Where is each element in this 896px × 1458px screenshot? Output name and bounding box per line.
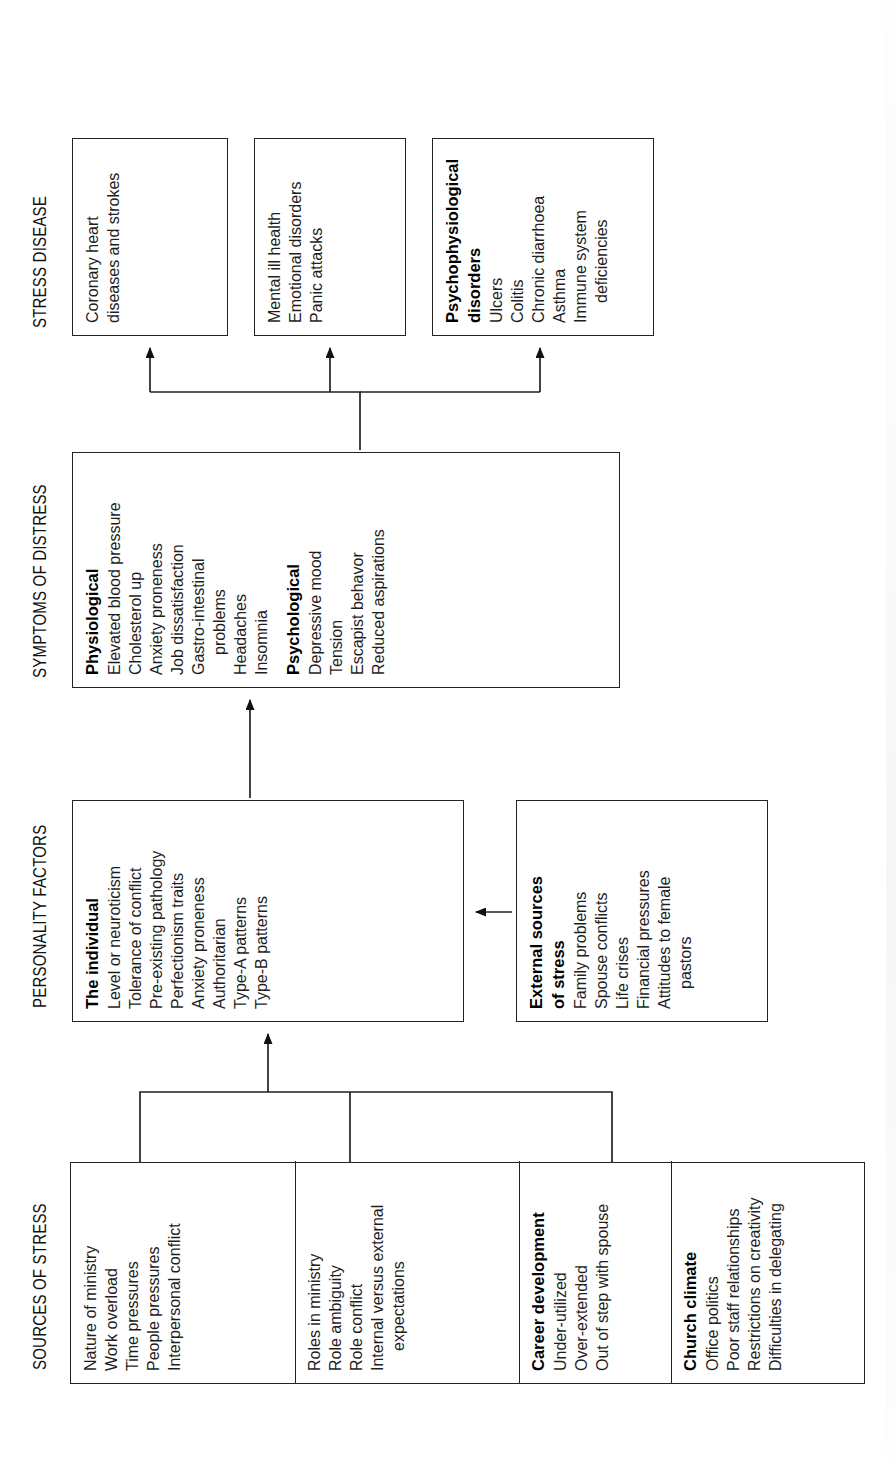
list-item: Spouse conflicts bbox=[591, 812, 612, 1009]
list-item: Emotional disorders bbox=[285, 150, 306, 323]
list-item: Internal versus external bbox=[367, 1172, 388, 1371]
source-group-career-development: Career development Under-utilized Over-e… bbox=[519, 1161, 671, 1383]
list-item: Escapist behavor bbox=[347, 464, 368, 675]
list-item: Authoritarian bbox=[209, 812, 230, 1009]
list-item: Role ambiguity bbox=[325, 1172, 346, 1371]
list-item: Role conflict bbox=[346, 1172, 367, 1371]
heading-stress-disease: STRESS DISEASE bbox=[30, 196, 51, 328]
list-item: Interpersonal conflict bbox=[164, 1172, 185, 1371]
list-item: deficiencies bbox=[591, 150, 612, 323]
list-item: Mental ill health bbox=[264, 150, 285, 323]
list-item: Roles in ministry bbox=[304, 1172, 325, 1371]
source-group-roles: Roles in ministry Role ambiguity Role co… bbox=[295, 1161, 519, 1383]
list-item: Reduced aspirations bbox=[368, 464, 389, 675]
list-item: Time pressures bbox=[122, 1172, 143, 1371]
column-headings: SOURCES OF STRESS PERSONALITY FACTORS SY… bbox=[30, 0, 56, 1458]
list-item: problems bbox=[209, 464, 230, 675]
list-item: Tension bbox=[326, 464, 347, 675]
list-item: Tolerance of conflict bbox=[125, 812, 146, 1009]
list-item: Job dissatisfaction bbox=[167, 464, 188, 675]
list-item: Difficulties in delegating bbox=[765, 1172, 786, 1371]
list-item: Poor staff relationships bbox=[723, 1172, 744, 1371]
list-item: Asthma bbox=[549, 150, 570, 323]
list-item: Colitis bbox=[507, 150, 528, 323]
list-item: People pressures bbox=[143, 1172, 164, 1371]
list-item: Headaches bbox=[230, 464, 251, 675]
scan-artifact bbox=[886, 0, 896, 1458]
stress-model-diagram: SOURCES OF STRESS PERSONALITY FACTORS SY… bbox=[0, 0, 896, 1458]
list-item: Level or neuroticism bbox=[104, 812, 125, 1009]
group-title-line-2: of stress bbox=[548, 812, 569, 1009]
arrow-sources-to-individual bbox=[140, 1034, 612, 1162]
group-title-line-2: disorders bbox=[464, 150, 485, 323]
arrow-symptoms-to-diseases bbox=[150, 348, 540, 450]
list-item: Immune system bbox=[570, 150, 591, 323]
group-title: Church climate bbox=[680, 1172, 701, 1371]
list-item: Work overload bbox=[101, 1172, 122, 1371]
list-item: Over-extended bbox=[571, 1172, 592, 1371]
list-item: diseases and strokes bbox=[103, 150, 124, 323]
heading-symptoms-of-distress: SYMPTOMS OF DISTRESS bbox=[30, 484, 51, 678]
list-item: Depressive mood bbox=[305, 464, 326, 675]
list-item: Nature of ministry bbox=[80, 1172, 101, 1371]
list-item: Perfectionism traits bbox=[167, 812, 188, 1009]
list-item: Panic attacks bbox=[306, 150, 327, 323]
list-item: Anxiety proneness bbox=[188, 812, 209, 1009]
list-item: Anxiety proneness bbox=[146, 464, 167, 675]
group-title: The individual bbox=[82, 812, 103, 1009]
list-item: Insomnia bbox=[251, 464, 272, 675]
heading-personality-factors: PERSONALITY FACTORS bbox=[30, 825, 51, 1008]
group-title: Career development bbox=[528, 1172, 549, 1371]
coronary-heart-disease-box: Coronary heart diseases and strokes bbox=[72, 138, 228, 336]
group-title-line-1: Psychophysiological bbox=[442, 150, 463, 323]
list-item: Coronary heart bbox=[82, 150, 103, 323]
symptoms-of-distress-box: Physiological Elevated blood pressure Ch… bbox=[72, 452, 620, 688]
list-item: Gastro-intestinal bbox=[188, 464, 209, 675]
list-item: Elevated blood pressure bbox=[104, 464, 125, 675]
list-item: Family problems bbox=[570, 812, 591, 1009]
source-group-church-climate: Church climate Office politics Poor staf… bbox=[671, 1161, 866, 1383]
list-item: Office politics bbox=[702, 1172, 723, 1371]
list-item: Under-utilized bbox=[550, 1172, 571, 1371]
diagram-rotation-wrapper: SOURCES OF STRESS PERSONALITY FACTORS SY… bbox=[0, 0, 896, 1458]
list-item: Ulcers bbox=[486, 150, 507, 323]
list-item: Pre-existing pathology bbox=[146, 812, 167, 1009]
list-item: expectations bbox=[388, 1172, 409, 1371]
group-title-psychological: Psychological bbox=[283, 464, 304, 675]
external-sources-of-stress-box: External sources of stress Family proble… bbox=[516, 800, 768, 1022]
psychophysiological-disorders-box: Psychophysiological disorders Ulcers Col… bbox=[432, 138, 654, 336]
list-item: Out of step with spouse bbox=[592, 1172, 613, 1371]
sources-of-stress-box: Nature of ministry Work overload Time pr… bbox=[70, 1162, 865, 1384]
list-item: pastors bbox=[675, 812, 696, 1009]
list-item: Restrictions on creativity bbox=[744, 1172, 765, 1371]
group-title-line-1: External sources bbox=[526, 812, 547, 1009]
heading-sources-of-stress: SOURCES OF STRESS bbox=[30, 1203, 51, 1370]
list-item: Type-A patterns bbox=[230, 812, 251, 1009]
mental-ill-health-box: Mental ill health Emotional disorders Pa… bbox=[254, 138, 406, 336]
list-item: Cholesterol up bbox=[125, 464, 146, 675]
group-title-physiological: Physiological bbox=[82, 464, 103, 675]
source-group-ministry: Nature of ministry Work overload Time pr… bbox=[71, 1161, 295, 1383]
list-item: Type-B patterns bbox=[251, 812, 272, 1009]
list-item: Attitudes to female bbox=[654, 812, 675, 1009]
list-item: Financial pressures bbox=[633, 812, 654, 1009]
the-individual-box: The individual Level or neuroticism Tole… bbox=[72, 800, 464, 1022]
list-item: Chronic diarrhoea bbox=[528, 150, 549, 323]
list-item: Life crises bbox=[612, 812, 633, 1009]
